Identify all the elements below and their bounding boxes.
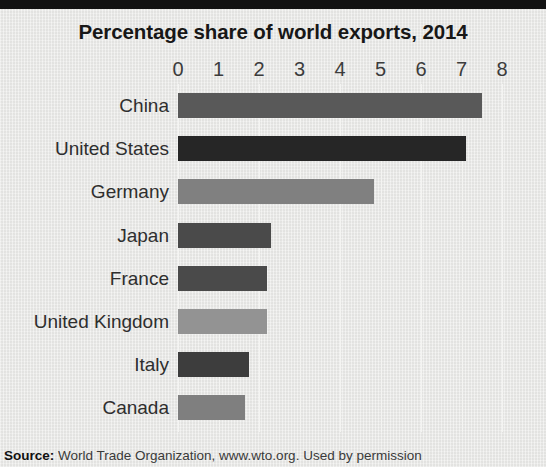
category-label-canada: Canada [102, 386, 169, 429]
x-tick-label-8: 8 [496, 56, 507, 82]
top-black-band [0, 0, 546, 9]
x-tick-label-7: 7 [456, 56, 467, 82]
category-label-china: China [119, 84, 169, 127]
chart-title: Percentage share of world exports, 2014 [0, 20, 546, 44]
bar-germany [178, 179, 374, 204]
bar-united-states [178, 136, 466, 161]
bar-japan [178, 223, 271, 248]
bar-row: United States [178, 127, 502, 170]
x-tick-label-1: 1 [213, 56, 224, 82]
bar-row: United Kingdom [178, 300, 502, 343]
bar-row: China [178, 84, 502, 127]
category-label-france: France [110, 257, 169, 300]
x-axis-tick-labels: 012345678 [178, 56, 502, 82]
bar-row: Italy [178, 343, 502, 386]
bar-row: Canada [178, 386, 502, 429]
bar-row: Japan [178, 214, 502, 257]
category-label-italy: Italy [134, 343, 169, 386]
source-note: Source: World Trade Organization, www.wt… [4, 448, 422, 463]
bar-canada [178, 395, 245, 420]
category-label-united-states: United States [55, 127, 169, 170]
bar-france [178, 266, 267, 291]
category-label-united-kingdom: United Kingdom [34, 300, 169, 343]
category-label-germany: Germany [91, 170, 169, 213]
x-tick-label-3: 3 [294, 56, 305, 82]
bar-united-kingdom [178, 309, 267, 334]
bar-row: Germany [178, 170, 502, 213]
source-value: World Trade Organization, www.wto.org. U… [58, 448, 422, 463]
bar-row: France [178, 257, 502, 300]
plot-area: ChinaUnited StatesGermanyJapanFranceUnit… [178, 84, 502, 432]
chart-figure: Percentage share of world exports, 2014 … [0, 0, 546, 467]
category-label-japan: Japan [117, 214, 169, 257]
bar-china [178, 93, 482, 118]
x-tick-label-0: 0 [172, 56, 183, 82]
gridline-8 [502, 84, 503, 432]
x-tick-label-6: 6 [415, 56, 426, 82]
x-tick-label-2: 2 [253, 56, 264, 82]
source-label: Source: [4, 448, 54, 463]
x-tick-label-4: 4 [334, 56, 345, 82]
x-tick-label-5: 5 [375, 56, 386, 82]
bar-italy [178, 352, 249, 377]
